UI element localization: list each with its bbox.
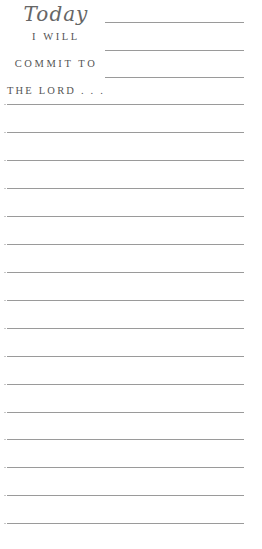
line-tick-mark [4, 356, 6, 357]
line-tick-mark [4, 412, 6, 413]
line-tick-mark [4, 523, 6, 524]
heading-line-2: COMMIT TO [0, 58, 112, 69]
writing-line [7, 412, 244, 413]
writing-line [7, 467, 244, 468]
writing-line [7, 328, 244, 329]
writing-line [7, 132, 244, 133]
writing-line [7, 523, 244, 524]
line-tick-mark [4, 328, 6, 329]
line-tick-mark [4, 300, 6, 301]
writing-line [7, 356, 244, 357]
line-tick-mark [4, 384, 6, 385]
writing-line [7, 384, 244, 385]
line-tick-mark [4, 188, 6, 189]
line-tick-mark [4, 244, 6, 245]
short-writing-line [105, 22, 244, 23]
writing-line [7, 216, 244, 217]
line-tick-mark [4, 160, 6, 161]
short-writing-line [105, 77, 244, 78]
line-tick-mark [4, 272, 6, 273]
line-tick-mark [4, 495, 6, 496]
short-writing-line [105, 50, 244, 51]
line-tick-mark [4, 439, 6, 440]
line-tick-mark [4, 467, 6, 468]
writing-line [7, 495, 244, 496]
line-tick-mark [4, 104, 6, 105]
heading-title: Today [0, 2, 112, 26]
line-tick-mark [4, 216, 6, 217]
writing-line [7, 104, 244, 105]
heading-line-1: I WILL [0, 31, 112, 42]
writing-line [7, 272, 244, 273]
line-tick-mark [4, 132, 6, 133]
writing-line [7, 300, 244, 301]
writing-line [7, 160, 244, 161]
writing-line [7, 244, 244, 245]
writing-line [7, 439, 244, 440]
writing-line [7, 188, 244, 189]
heading-line-3: THE LORD . . . [0, 85, 112, 96]
